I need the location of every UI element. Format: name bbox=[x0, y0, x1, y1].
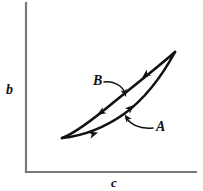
label-A-leader-group bbox=[122, 113, 153, 129]
label-B-leader-group bbox=[104, 82, 129, 98]
curve-label-B: B bbox=[93, 74, 102, 88]
x-axis-label: c bbox=[111, 176, 117, 189]
curve-label-A: A bbox=[156, 120, 165, 134]
figure-canvas bbox=[0, 0, 203, 191]
y-axis-label: b bbox=[6, 83, 13, 97]
hysteresis-loop-figure: b c A B bbox=[0, 0, 203, 191]
axes-group bbox=[26, 3, 196, 172]
label-A-leader-line bbox=[126, 118, 153, 128]
